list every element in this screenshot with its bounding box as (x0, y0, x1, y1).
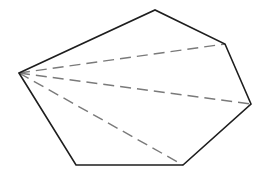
hexagon-edges (19, 10, 251, 165)
diagonal-AE (19, 73, 183, 165)
hexagon-diagram (0, 0, 265, 176)
dashed-diagonals (19, 44, 251, 165)
hexagon-outline (19, 10, 251, 165)
diagonal-AD (19, 73, 251, 104)
